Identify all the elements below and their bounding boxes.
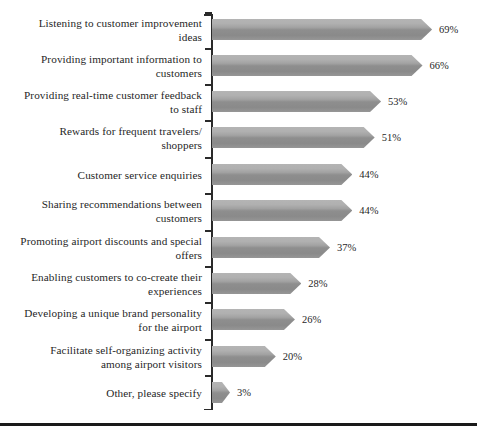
axis-tick xyxy=(205,157,212,159)
bar-1 xyxy=(212,55,423,76)
bar-shape xyxy=(212,200,352,221)
category-label: Providing real-time customer feedback to… xyxy=(8,88,202,116)
axis-tick xyxy=(205,375,212,377)
category-label: Sharing recommendations between customer… xyxy=(8,197,202,225)
bar-shape xyxy=(212,55,423,76)
bar-shape xyxy=(212,346,276,367)
bar-row: Providing real-time customer feedback to… xyxy=(0,84,477,120)
bar-6 xyxy=(212,237,330,258)
value-label: 26% xyxy=(302,314,321,326)
bar-8 xyxy=(212,309,295,330)
bar-row: Listening to customer improvement ideas … xyxy=(0,12,477,48)
bar-shape xyxy=(212,309,295,330)
bar-4 xyxy=(212,164,352,185)
bar-shape xyxy=(212,19,432,40)
bar-shape xyxy=(212,127,375,148)
category-label: Enabling customers to co-create their ex… xyxy=(8,270,202,298)
value-label: 28% xyxy=(308,278,327,290)
category-label: Customer service enquiries xyxy=(8,168,202,182)
axis-tick xyxy=(205,48,212,50)
bar-shape xyxy=(212,91,381,112)
value-label: 66% xyxy=(430,60,449,72)
bar-row: Enabling customers to co-create their ex… xyxy=(0,266,477,302)
value-label: 37% xyxy=(337,242,356,254)
bar-shape xyxy=(212,382,230,403)
axis-tick xyxy=(205,193,212,195)
bar-9 xyxy=(212,346,276,367)
category-label: Facilitate self-organizing activity amon… xyxy=(8,343,202,371)
bar-10 xyxy=(212,382,230,403)
plot-area: Listening to customer improvement ideas … xyxy=(0,0,477,418)
axis-tick xyxy=(205,230,212,232)
bar-chart-figure: Listening to customer improvement ideas … xyxy=(0,0,477,437)
axis-tick xyxy=(205,266,212,268)
bar-row: Developing a unique brand personality fo… xyxy=(0,302,477,338)
bar-0 xyxy=(212,19,432,40)
category-label: Developing a unique brand personality fo… xyxy=(8,306,202,334)
bar-row: Sharing recommendations between customer… xyxy=(0,193,477,229)
bar-3 xyxy=(212,127,375,148)
axis-tick xyxy=(205,120,212,122)
bar-row: Facilitate self-organizing activity amon… xyxy=(0,339,477,375)
category-label: Listening to customer improvement ideas xyxy=(8,16,202,44)
bar-row: Rewards for frequent travelers/ shoppers… xyxy=(0,120,477,156)
category-label: Promoting airport discounts and special … xyxy=(8,234,202,262)
value-label: 44% xyxy=(359,169,378,181)
axis-tick xyxy=(205,84,212,86)
bar-row: Other, please specify 3% xyxy=(0,375,477,411)
value-label: 44% xyxy=(359,205,378,217)
bottom-rule xyxy=(0,423,477,426)
axis-tick xyxy=(205,12,212,14)
bar-row: Providing important information to custo… xyxy=(0,48,477,84)
value-label: 3% xyxy=(237,387,251,399)
bar-row: Customer service enquiries 44% xyxy=(0,157,477,193)
value-label: 20% xyxy=(283,351,302,363)
value-label: 69% xyxy=(439,24,458,36)
bar-row: Promoting airport discounts and special … xyxy=(0,230,477,266)
bar-shape xyxy=(212,164,352,185)
value-label: 53% xyxy=(388,96,407,108)
bar-2 xyxy=(212,91,381,112)
bar-shape xyxy=(212,237,330,258)
category-label: Rewards for frequent travelers/ shoppers xyxy=(8,124,202,152)
value-label: 51% xyxy=(382,132,401,144)
bar-shape xyxy=(212,273,301,294)
category-label: Providing important information to custo… xyxy=(8,52,202,80)
category-label: Other, please specify xyxy=(8,386,202,400)
bar-5 xyxy=(212,200,352,221)
axis-tick xyxy=(205,339,212,341)
axis-tick xyxy=(205,302,212,304)
bar-7 xyxy=(212,273,301,294)
